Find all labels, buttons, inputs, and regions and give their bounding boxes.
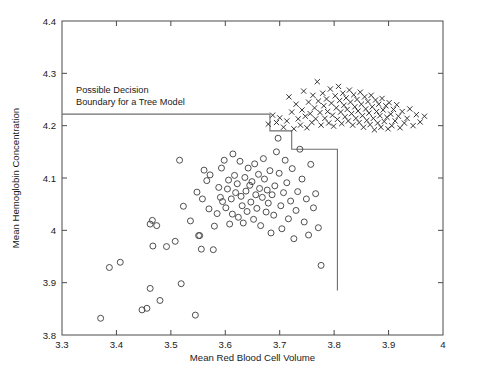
data-point-cross xyxy=(365,99,370,104)
data-point-cross xyxy=(418,119,423,124)
data-point-circle xyxy=(288,198,294,204)
data-point-cross xyxy=(388,112,393,117)
data-point-circle xyxy=(150,243,156,249)
data-point-circle xyxy=(187,218,193,224)
y-axis-title: Mean Hemoglobin Concentration xyxy=(10,108,21,248)
data-point-cross xyxy=(315,79,320,84)
data-point-cross xyxy=(329,101,334,106)
data-point-circle xyxy=(261,176,267,182)
data-point-cross xyxy=(359,102,364,107)
data-point-cross xyxy=(364,118,369,123)
data-point-circle xyxy=(299,176,305,182)
y-tick-label: 4.2 xyxy=(43,120,56,131)
data-point-circle xyxy=(264,187,270,193)
data-point-cross xyxy=(352,104,357,109)
data-point-cross xyxy=(325,109,330,114)
data-point-cross xyxy=(422,114,427,119)
data-point-cross xyxy=(304,125,309,130)
data-point-circle xyxy=(259,194,265,200)
data-point-cross xyxy=(291,126,296,131)
data-point-cross xyxy=(293,102,298,107)
x-tick-label: 3.3 xyxy=(55,339,68,350)
data-point-cross xyxy=(378,125,383,130)
data-point-circle xyxy=(245,165,251,171)
data-point-circle xyxy=(230,151,236,157)
data-point-cross xyxy=(360,113,365,118)
data-point-cross xyxy=(361,125,366,130)
data-point-cross xyxy=(357,120,362,125)
data-point-circle xyxy=(293,207,299,213)
x-tick-label: 3.9 xyxy=(382,339,395,350)
data-point-circle xyxy=(282,157,288,163)
data-point-cross xyxy=(336,84,341,89)
data-point-cross xyxy=(341,103,346,108)
data-point-circle xyxy=(281,190,287,196)
data-point-circle xyxy=(117,259,123,265)
data-point-circle xyxy=(199,196,205,202)
data-point-circle xyxy=(260,156,266,162)
data-point-circle xyxy=(211,223,217,229)
data-point-cross xyxy=(351,92,356,97)
data-point-cross xyxy=(354,97,359,102)
data-point-cross xyxy=(306,100,311,105)
y-tick-label: 3.9 xyxy=(43,277,56,288)
data-point-circle xyxy=(178,281,184,287)
data-point-circle xyxy=(242,174,248,180)
data-point-circle xyxy=(154,223,160,229)
data-point-circle xyxy=(216,184,222,190)
data-point-circle xyxy=(285,216,291,222)
data-point-cross xyxy=(308,111,313,116)
scatter-plot: 3.33.43.53.63.73.83.94 3.83.944.14.24.34… xyxy=(0,0,482,381)
data-point-cross xyxy=(379,96,384,101)
data-point-circle xyxy=(210,247,216,253)
x-tick-label: 3.6 xyxy=(219,339,232,350)
x-tick-label: 4 xyxy=(440,339,446,350)
data-point-cross xyxy=(367,122,372,127)
data-point-circle xyxy=(295,189,301,195)
data-point-cross xyxy=(321,103,326,108)
tick-marks-group xyxy=(62,21,443,335)
x-tick-label: 3.5 xyxy=(164,339,177,350)
data-point-circle xyxy=(98,315,104,321)
data-point-cross xyxy=(339,121,344,126)
data-point-circle xyxy=(275,135,281,141)
data-point-circle xyxy=(315,225,321,231)
data-point-circle xyxy=(272,183,278,189)
data-point-cross xyxy=(402,120,407,125)
data-point-circle xyxy=(306,232,312,238)
data-point-cross xyxy=(387,100,392,105)
data-point-circle xyxy=(252,161,258,167)
data-point-cross xyxy=(363,106,368,111)
data-point-circle xyxy=(271,212,277,218)
y-axis-tick-labels: 3.83.944.14.24.34.4 xyxy=(43,16,57,341)
data-point-circle xyxy=(147,285,153,291)
data-point-cross xyxy=(370,104,375,109)
x-tick-label: 3.8 xyxy=(327,339,340,350)
data-point-circle xyxy=(223,205,229,211)
data-point-cross xyxy=(330,113,335,118)
data-point-cross xyxy=(338,109,343,114)
x-axis-tick-labels: 3.33.43.53.63.73.83.94 xyxy=(55,339,446,350)
data-point-cross xyxy=(328,86,333,91)
decision-boundary-annotation: Possible Decision Boundary for a Tree Mo… xyxy=(76,85,185,107)
data-point-cross xyxy=(318,123,323,128)
data-point-cross xyxy=(296,116,301,121)
data-point-circle xyxy=(227,221,233,227)
data-point-circle xyxy=(255,171,261,177)
data-point-cross xyxy=(396,114,401,119)
data-point-cross xyxy=(375,120,380,125)
data-point-cross xyxy=(331,124,336,129)
data-point-cross xyxy=(299,107,304,112)
data-point-cross xyxy=(391,107,396,112)
series-group-circles xyxy=(98,135,324,321)
y-tick-label: 3.8 xyxy=(43,330,56,341)
data-point-cross xyxy=(312,105,317,110)
data-point-cross xyxy=(355,108,360,113)
data-point-circle xyxy=(303,196,309,202)
data-point-circle xyxy=(301,219,307,225)
data-point-circle xyxy=(207,172,213,178)
data-point-circle xyxy=(218,165,224,171)
data-point-cross xyxy=(320,91,325,96)
y-tick-label: 4 xyxy=(51,225,57,236)
data-point-cross xyxy=(286,94,291,99)
